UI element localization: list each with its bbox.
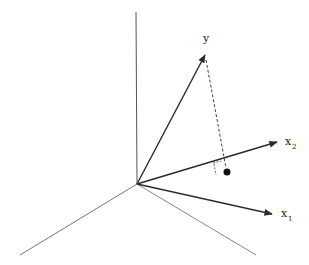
- label-y: y: [202, 32, 210, 45]
- lower-left-axis: [20, 184, 137, 255]
- right-angle-marker: [214, 164, 216, 175]
- projection-diagram: y x 2 x 1: [0, 0, 309, 265]
- vertical-axis: [136, 12, 137, 184]
- label-x2: x: [285, 135, 292, 148]
- x1-vector: [137, 184, 272, 214]
- label-x1: x: [281, 207, 288, 220]
- x2-vector: [137, 142, 277, 184]
- projection-point: [224, 169, 231, 176]
- label-x1-subscript: 1: [288, 215, 292, 223]
- y-vector: [137, 55, 205, 184]
- lower-right-axis: [137, 184, 256, 255]
- label-x2-subscript: 2: [292, 143, 296, 151]
- projection-dashed-line: [206, 60, 226, 168]
